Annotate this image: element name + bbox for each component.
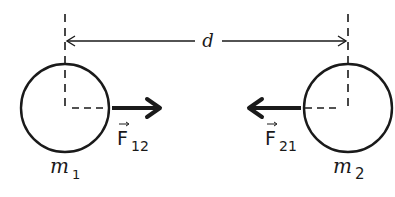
mass-2-subscript: 2	[355, 165, 365, 183]
mass-1-label: m 1	[50, 154, 80, 182]
force-f21-label: F 21	[265, 122, 297, 154]
gravitation-diagram: d F 12 F 21 m 1 m 2	[0, 0, 395, 197]
force-f12-symbol: F	[117, 127, 128, 149]
force-f21-subscript: 21	[279, 138, 297, 154]
force-f21-arrow	[249, 99, 301, 117]
distance-label: d	[202, 30, 214, 51]
mass-2-label: m 2	[333, 154, 365, 183]
mass-1-subscript: 1	[72, 167, 80, 182]
force-f12-label: F 12	[117, 122, 149, 154]
force-f12-arrow	[112, 99, 160, 117]
mass-1-symbol: m	[50, 154, 69, 178]
force-f12-subscript: 12	[131, 138, 149, 154]
force-f21-symbol: F	[265, 127, 276, 149]
mass-2-symbol: m	[333, 154, 352, 178]
